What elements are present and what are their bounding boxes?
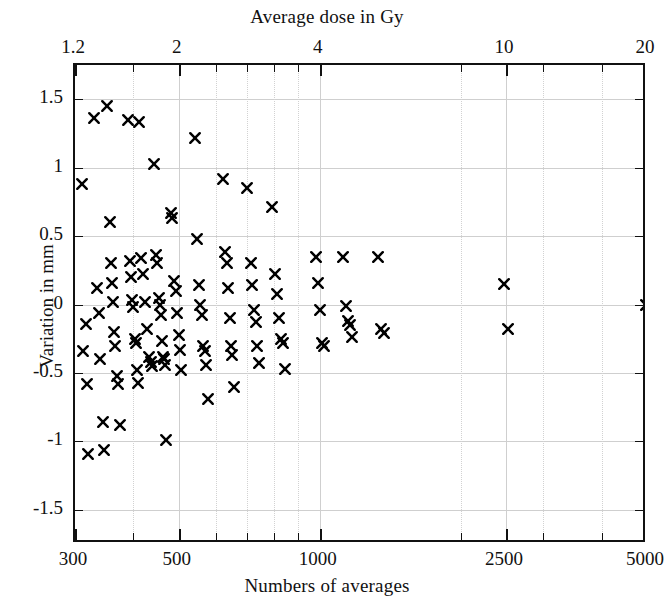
x-marker-icon [106,276,119,289]
gridline-horizontal [75,99,643,100]
x-marker-icon [340,299,353,312]
top-axis-major-tick [506,65,508,76]
y-axis-tick [75,236,83,237]
x-axis-minor-tick [543,65,544,72]
y-axis-tick-label: 0 [0,292,63,314]
x-axis-tick-label: 1000 [299,548,337,570]
x-marker-icon [94,353,107,366]
x-marker-icon [111,377,124,390]
x-marker-icon [109,339,122,352]
top-axis-tick-label: 20 [636,36,655,58]
x-marker-icon [271,287,284,300]
x-marker-icon [377,327,390,340]
x-axis-minor-tick [298,533,299,540]
x-marker-icon [103,216,116,229]
x-axis-tick-label: 5000 [626,548,664,570]
x-axis-major-tick [179,529,181,540]
x-marker-icon [98,443,111,456]
x-marker-icon [160,433,173,446]
x-marker-icon [113,418,126,431]
x-marker-icon [223,312,236,325]
x-marker-icon [275,332,288,345]
x-marker-icon [175,364,188,377]
x-marker-icon [129,336,142,349]
x-marker-icon [336,250,349,263]
x-marker-icon [125,271,138,284]
x-marker-icon [222,282,235,295]
x-axis-minor-tick [216,533,217,540]
x-marker-icon [143,350,156,363]
x-axis-minor-tick [274,533,275,540]
x-marker-icon [501,323,514,336]
top-axis-major-tick [179,65,181,76]
y-axis-tick [75,441,83,442]
x-marker-icon [107,295,120,308]
y-axis-tick-label: 0.5 [0,223,63,245]
x-axis-major-tick [320,529,322,540]
plot-area [73,63,645,542]
x-marker-icon [135,251,148,264]
x-marker-icon [88,112,101,125]
gridline-horizontal [75,510,643,511]
x-marker-icon [153,291,166,304]
x-marker-icon [145,355,158,368]
x-marker-icon [166,212,179,225]
x-axis-major-tick [506,529,508,540]
x-axis-tick-label: 300 [59,548,88,570]
y-axis-tick [635,305,643,306]
x-marker-icon [371,250,384,263]
x-marker-icon [374,323,387,336]
x-marker-icon [101,100,114,113]
x-axis-tick-label: 500 [163,548,192,570]
top-axis-major-tick [75,65,77,76]
x-marker-icon [171,306,184,319]
gridline-vertical-minor [216,65,218,540]
x-marker-icon [201,392,214,405]
x-marker-icon [244,257,257,270]
x-axis-minor-tick [602,533,603,540]
x-marker-icon [216,172,229,185]
x-marker-icon [130,364,143,377]
x-marker-icon [75,178,88,191]
y-axis-tick-label: 1 [0,155,63,177]
y-axis-tick-label: 1.5 [0,86,63,108]
top-axis-tick-label: 2 [172,36,182,58]
x-marker-icon [76,345,89,358]
x-marker-icon [190,232,203,245]
gridline-vertical-major [320,65,321,540]
gridline-vertical-minor [247,65,249,540]
x-marker-icon [249,316,262,329]
x-axis-minor-tick [461,533,462,540]
x-marker-icon [192,279,205,292]
y-axis-tick [75,99,83,100]
x-marker-icon [104,257,117,270]
gridline-horizontal [75,373,643,374]
x-marker-icon [498,277,511,290]
x-marker-icon [224,339,237,352]
x-marker-icon [151,257,164,270]
x-marker-icon [188,131,201,144]
top-axis-tick-label: 4 [313,36,323,58]
x-marker-icon [345,331,358,344]
top-axis-major-tick [320,65,322,76]
gridline-vertical-minor [543,65,545,540]
gridline-horizontal [75,305,643,306]
y-axis-tick [75,305,83,306]
x-marker-icon [158,358,171,371]
x-marker-icon [221,257,234,270]
x-marker-icon [110,369,123,382]
y-axis-tick [635,510,643,511]
gridline-horizontal [75,168,643,169]
y-axis-tick [75,168,83,169]
x-marker-icon [141,323,154,336]
y-axis-tick-label: -1 [0,428,63,450]
y-axis-tick [635,236,643,237]
x-axis-title: Numbers of averages [0,575,654,597]
gridline-vertical-minor [461,65,463,540]
gridline-vertical-major [179,65,180,540]
x-axis-tick-label: 2500 [485,548,523,570]
y-axis-tick [635,441,643,442]
x-axis-minor-tick [133,533,134,540]
top-axis-title: Average dose in Gy [0,6,654,28]
